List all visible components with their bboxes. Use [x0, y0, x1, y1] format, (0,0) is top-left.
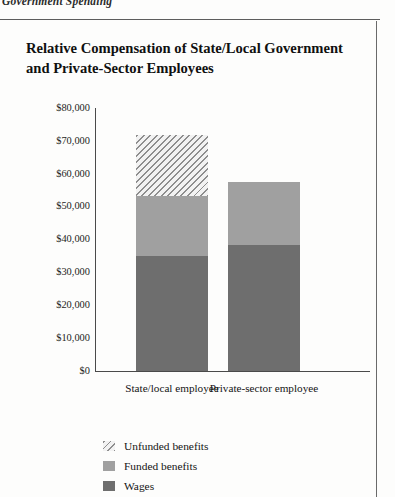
y-tick-label: $20,000 — [0, 299, 90, 310]
page-canvas: Government Spending Relative Compensatio… — [0, 0, 395, 497]
legend-swatch-funded-benefits — [103, 461, 115, 471]
bar-segment-funded-benefits[interactable] — [228, 182, 300, 245]
chart-legend: Unfunded benefits Funded benefits Wages — [103, 437, 208, 497]
x-axis-line — [95, 371, 370, 372]
y-tick-label: $0 — [0, 365, 90, 376]
bar-state-local[interactable] — [136, 135, 208, 371]
category-label-private-sector: Private-sector employee — [199, 381, 329, 396]
y-tick-label: $40,000 — [0, 233, 90, 244]
bar-segment-unfunded-benefits[interactable] — [136, 135, 208, 196]
legend-item-unfunded-benefits[interactable]: Unfunded benefits — [103, 437, 208, 455]
y-tick-label: $50,000 — [0, 200, 90, 211]
y-axis-ticks: $80,000 $70,000 $60,000 $50,000 $40,000 … — [0, 0, 90, 497]
chart-plot-area: $80,000 $70,000 $60,000 $50,000 $40,000 … — [0, 0, 395, 497]
legend-label: Funded benefits — [124, 460, 197, 472]
y-tick-label: $60,000 — [0, 168, 90, 179]
bar-segment-wages[interactable] — [136, 256, 208, 371]
legend-item-wages[interactable]: Wages — [103, 477, 208, 495]
legend-label: Unfunded benefits — [124, 440, 208, 452]
legend-label: Wages — [124, 480, 154, 492]
y-tick-label: $70,000 — [0, 135, 90, 146]
y-tick-label: $10,000 — [0, 332, 90, 343]
y-tick-label: $30,000 — [0, 266, 90, 277]
y-axis-line — [95, 108, 96, 372]
bar-private-sector[interactable] — [228, 182, 300, 371]
legend-swatch-unfunded-benefits — [103, 441, 115, 451]
legend-swatch-wages — [103, 481, 115, 491]
bar-segment-wages[interactable] — [228, 245, 300, 371]
legend-item-funded-benefits[interactable]: Funded benefits — [103, 457, 208, 475]
y-tick-label: $80,000 — [0, 102, 90, 113]
bar-segment-funded-benefits[interactable] — [136, 196, 208, 256]
